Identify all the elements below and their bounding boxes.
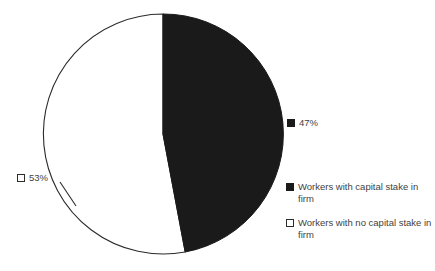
data-label-value: 47%: [299, 117, 318, 128]
filled-square-icon: [287, 119, 295, 127]
pie-slice-capital-stake[interactable]: [163, 14, 283, 252]
legend-item-capital-stake[interactable]: Workers with capital stake in firm: [286, 181, 435, 205]
pie-chart: 47% 53% Workers with capital stake in fi…: [0, 0, 435, 271]
chart-legend: Workers with capital stake in firm Worke…: [286, 181, 435, 253]
hollow-square-icon: [286, 219, 294, 227]
legend-item-label: Workers with capital stake in firm: [298, 181, 435, 205]
filled-square-icon: [286, 183, 294, 191]
data-label-no-capital-stake: 53%: [17, 172, 48, 183]
hollow-square-icon: [17, 174, 25, 182]
data-label-capital-stake: 47%: [287, 117, 318, 128]
data-label-value: 53%: [29, 172, 48, 183]
legend-item-no-capital-stake[interactable]: Workers with no capital stake in firm: [286, 217, 435, 241]
legend-item-label: Workers with no capital stake in firm: [298, 217, 435, 241]
